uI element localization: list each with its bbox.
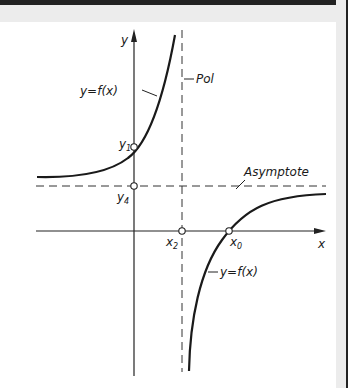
label-x2: x2 <box>165 235 178 251</box>
function-label-upper: y=f(x) <box>79 84 118 98</box>
pole-label: Pol <box>196 72 215 86</box>
function-label-lower: y=f(x) <box>219 265 258 279</box>
label-x0: x0 <box>229 235 242 251</box>
y-axis-arrow-icon <box>131 29 137 42</box>
x-axis-label: x <box>317 237 326 251</box>
label-y4: y4 <box>116 190 129 206</box>
point-x2 <box>179 228 185 234</box>
leader-function-upper <box>142 90 157 96</box>
point-y4 <box>131 183 137 189</box>
curve-left-branch <box>37 35 175 177</box>
y-axis-label: y <box>120 33 129 47</box>
label-y1: y1 <box>118 137 131 153</box>
leader-asymptote <box>236 180 245 189</box>
x-axis-arrow-icon <box>314 228 326 234</box>
point-y1 <box>131 144 137 150</box>
curve-right-branch <box>189 194 326 371</box>
function-diagram: y x Pol Asymptote y=f(x) y=f(x) y1 y4 x2… <box>0 0 348 388</box>
point-x0 <box>226 228 232 234</box>
asymptote-label: Asymptote <box>243 165 309 179</box>
